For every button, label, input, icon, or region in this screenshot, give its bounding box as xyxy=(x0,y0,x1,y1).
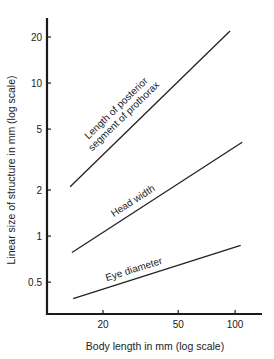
series-label: segment of prothorax xyxy=(86,79,161,153)
chart: 0.51251020 2050100 Length of posteriorse… xyxy=(0,0,274,359)
x-tick-label: 20 xyxy=(97,319,109,330)
y-tick-label: 5 xyxy=(36,124,42,135)
y-tick-label: 10 xyxy=(31,78,43,89)
x-tick-label: 100 xyxy=(227,319,244,330)
y-tick-label: 0.5 xyxy=(28,277,42,288)
y-tick-label: 2 xyxy=(36,185,42,196)
y-tick-label: 20 xyxy=(31,32,43,43)
series-line xyxy=(72,142,242,252)
x-axis-title: Body length in mm (log scale) xyxy=(86,340,224,352)
y-tick-label: 1 xyxy=(36,231,42,242)
y-axis-title: Linear size of structure in mm (log scal… xyxy=(5,75,17,264)
x-tick-label: 50 xyxy=(173,319,185,330)
series-label: Length of posterior xyxy=(82,75,150,142)
series-line xyxy=(70,31,230,187)
series-labels: Length of posteriorsegment of prothoraxH… xyxy=(82,75,164,284)
series-line xyxy=(73,245,241,298)
